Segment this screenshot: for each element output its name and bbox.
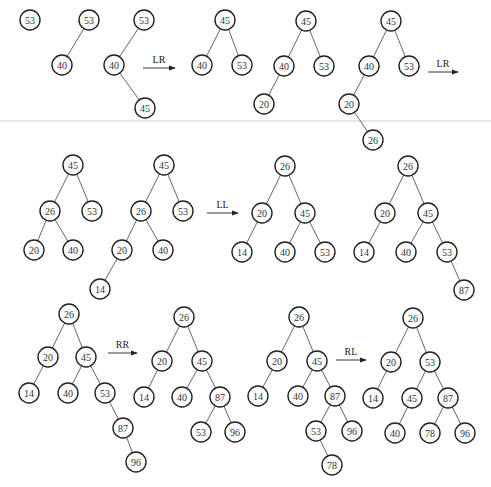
node-value: 96: [347, 426, 357, 437]
tree-node: 26: [403, 308, 423, 328]
tree-node: 45: [154, 155, 174, 175]
tree-node: 53: [437, 242, 457, 262]
tree-edge: [321, 405, 330, 422]
tree-edge: [395, 327, 408, 353]
node-value: 40: [63, 388, 73, 399]
node-value: 53: [87, 206, 97, 217]
tree-node: 45: [418, 203, 438, 223]
node-value: 14: [359, 247, 369, 258]
node-value: 40: [197, 60, 207, 71]
tree-node: 45: [307, 351, 327, 371]
tree-edge: [55, 220, 68, 242]
tree-node: 96: [455, 423, 475, 443]
tree-node: 20: [252, 203, 272, 223]
node-value: 20: [386, 357, 396, 368]
tree-edge: [310, 222, 321, 243]
node-value: 53: [25, 15, 35, 26]
tree-node: 96: [126, 452, 146, 472]
tree-node: 45: [295, 203, 315, 223]
tree-node: 14: [248, 386, 268, 406]
tree-edge: [339, 405, 347, 422]
tree-edge: [266, 175, 280, 204]
tree-edge: [377, 371, 386, 389]
tree-node: 53: [173, 201, 193, 221]
node-value: 26: [64, 309, 74, 320]
tree-edge: [411, 222, 423, 244]
tree-node: 40: [63, 240, 83, 260]
tree-edge: [320, 440, 327, 456]
tree-node: 40: [275, 242, 295, 262]
node-value: 26: [136, 206, 146, 217]
node-value: 53: [425, 357, 435, 368]
node-value: 20: [272, 356, 282, 367]
rotation-arrow-ll: LL: [207, 199, 238, 213]
tree-node: 78: [322, 455, 342, 475]
rotation-arrow-lr: LR: [143, 54, 175, 68]
node-value: 45: [423, 208, 433, 219]
tree-edge: [417, 327, 427, 352]
node-value: 45: [301, 16, 311, 27]
node-value: 26: [294, 312, 304, 323]
node-value: 40: [364, 61, 374, 72]
node-value: 45: [407, 393, 417, 404]
tree-edge: [452, 407, 460, 424]
node-value: 53: [196, 427, 206, 438]
tree-node: 26: [398, 156, 418, 176]
tree-node: 53: [134, 10, 154, 30]
tree-t11: 2620451440538796: [19, 304, 146, 472]
tree-edge: [290, 222, 301, 243]
tree-node: 26: [40, 201, 60, 221]
node-value: 14: [237, 247, 247, 258]
tree-edge: [91, 366, 101, 384]
node-value: 20: [259, 99, 269, 110]
rotation-arrow-rr: RR: [108, 339, 137, 353]
tree-edge: [416, 371, 425, 389]
node-value: 40: [57, 60, 67, 71]
tree-edge: [263, 370, 272, 387]
tree-edge: [247, 222, 258, 243]
tree-node: 87: [454, 280, 474, 300]
tree-edge: [412, 175, 424, 204]
tree-node: 45: [402, 388, 422, 408]
tree-node: 40: [153, 240, 173, 260]
tree-node: 45: [135, 98, 155, 118]
node-value: 53: [178, 206, 188, 217]
tree-t14: 262053144587407896: [363, 308, 475, 443]
tree-edge: [281, 326, 294, 352]
tree-node: 87: [210, 387, 230, 407]
node-value: 20: [43, 352, 53, 363]
node-value: 53: [237, 60, 247, 71]
tree-node: 53: [20, 10, 40, 30]
tree-edge: [73, 323, 83, 347]
node-value: 14: [253, 391, 263, 402]
tree-t3: 534045: [104, 10, 155, 118]
node-value: 40: [401, 247, 411, 258]
tree-node: 40: [288, 386, 308, 406]
tree-node: 87: [113, 418, 133, 438]
tree-edge: [389, 175, 403, 204]
node-value: 26: [408, 313, 418, 324]
node-value: 53: [84, 15, 94, 26]
node-value: 14: [24, 388, 34, 399]
node-value: 53: [100, 388, 110, 399]
node-value: 26: [280, 161, 290, 172]
rotation-arrow-lr: LR: [428, 58, 458, 72]
tree-edge: [168, 174, 179, 202]
tree-node: 14: [19, 383, 39, 403]
tree-node: 53: [79, 10, 99, 30]
node-value: 96: [460, 428, 470, 439]
tree-node: 40: [172, 387, 192, 407]
tree-edge: [322, 370, 331, 387]
node-value: 45: [300, 208, 310, 219]
node-value: 40: [390, 428, 400, 439]
tree-edge: [432, 222, 442, 243]
node-value: 40: [68, 245, 78, 256]
node-value: 26: [179, 312, 189, 323]
node-value: 53: [320, 247, 330, 258]
tree-node: 53: [232, 55, 252, 75]
node-value: 40: [177, 392, 187, 403]
tree-node: 40: [359, 56, 379, 76]
tree-node: 53: [191, 422, 211, 442]
tree-t12: 2620451440875396: [134, 307, 245, 442]
tree-edge: [105, 259, 117, 281]
